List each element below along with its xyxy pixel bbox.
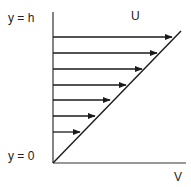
label-y-equals-h: y = h [8, 11, 34, 25]
label-u: U [131, 9, 140, 23]
label-v: V [174, 170, 182, 184]
velocity-profile-line [53, 31, 181, 163]
velocity-arrows [53, 37, 172, 132]
velocity-profile-diagram: y = h y = 0 U V [0, 0, 191, 187]
label-y-equals-0: y = 0 [8, 149, 35, 163]
